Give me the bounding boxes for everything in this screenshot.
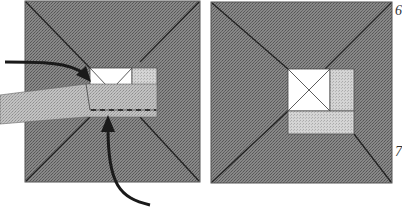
label-7: 7	[395, 144, 402, 160]
label-6: 6	[395, 3, 402, 19]
right-panel	[211, 2, 392, 183]
right-light-side	[330, 69, 354, 111]
left-window	[90, 68, 132, 85]
left-light-square	[132, 68, 157, 85]
left-panel	[0, 1, 200, 205]
right-light-bottom	[288, 111, 354, 134]
